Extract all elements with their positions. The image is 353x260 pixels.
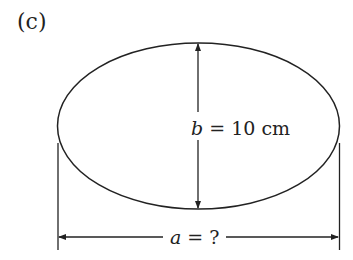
- major-axis-variable: a: [170, 226, 181, 248]
- minor-axis-label: b = 10 cm: [191, 117, 290, 139]
- ellipse-diagram: (c) b = 10 cm a = ?: [0, 0, 353, 260]
- major-axis-value: = ?: [181, 226, 219, 248]
- diagram-canvas: (c) b = 10 cm a = ?: [0, 0, 353, 260]
- panel-label: (c): [17, 9, 47, 34]
- major-axis-label: a = ?: [170, 226, 220, 248]
- minor-axis-variable: b: [191, 117, 203, 139]
- minor-axis-value: = 10 cm: [203, 117, 290, 139]
